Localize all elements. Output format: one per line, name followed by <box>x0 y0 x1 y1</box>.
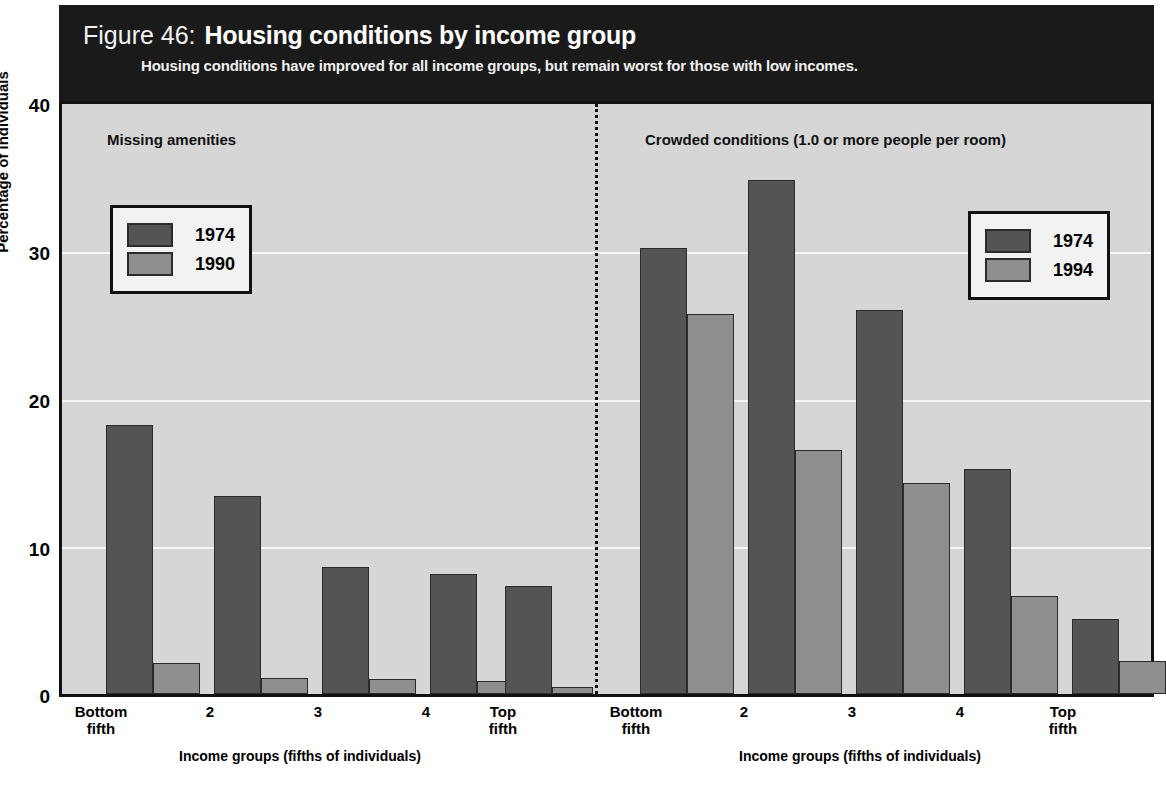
gridline-20 <box>62 400 1151 402</box>
bar-left-4-1974 <box>430 574 477 694</box>
figure-banner: Figure 46:Housing conditions by income g… <box>59 5 1154 101</box>
legend-swatch-1974 <box>127 223 173 247</box>
bar-left-topfifth-1990 <box>552 687 593 694</box>
bar-right-bottomfifth-1974 <box>640 248 687 694</box>
x-category-left-3: 3 <box>268 703 368 720</box>
figure-title: Housing conditions by income group <box>205 21 636 49</box>
bar-right-topfifth-1974 <box>1072 619 1119 694</box>
x-category-line1: Top <box>1013 703 1113 720</box>
x-category-line2: fifth <box>1013 720 1113 737</box>
bar-left-bottomfifth-1990 <box>153 663 200 694</box>
legend-row-1974: 1974 <box>127 223 235 247</box>
x-category-line2: fifth <box>453 720 553 737</box>
x-category-left-bottomfifth: Bottom fifth <box>51 703 151 737</box>
panel-heading-missing-amenities: Missing amenities <box>107 131 236 148</box>
bar-right-topfifth-1994 <box>1119 661 1166 694</box>
legend-swatch-1990 <box>127 252 173 276</box>
x-category-line1: Top <box>453 703 553 720</box>
bar-left-3-1974 <box>322 567 369 694</box>
legend-row-1994: 1994 <box>985 258 1093 282</box>
y-tick-label-30: 30 <box>8 243 50 265</box>
legend-swatch-1994 <box>985 258 1031 282</box>
bar-right-3-1974 <box>856 310 903 694</box>
chart-plot-area: Missing amenities Crowded conditions (1.… <box>59 101 1154 697</box>
figure-title-line: Figure 46:Housing conditions by income g… <box>83 21 636 50</box>
x-category-line1: 2 <box>694 703 794 720</box>
bar-right-2-1994 <box>795 450 842 694</box>
panel-heading-crowded-conditions: Crowded conditions (1.0 or more people p… <box>645 131 1006 148</box>
bar-right-2-1974 <box>748 180 795 694</box>
y-tick-label-0: 0 <box>8 686 50 708</box>
legend-label-1994: 1994 <box>1053 260 1093 281</box>
x-category-line2: fifth <box>586 720 686 737</box>
figure-number: Figure 46: <box>83 21 196 49</box>
x-category-left-topfifth: Top fifth <box>453 703 553 737</box>
x-axis-title-left: Income groups (fifths of individuals) <box>130 748 470 764</box>
legend-swatch-1974-right <box>985 229 1031 253</box>
x-category-line1: 3 <box>802 703 902 720</box>
y-tick-label-20: 20 <box>8 391 50 413</box>
bar-left-2-1974 <box>214 496 261 694</box>
x-category-line1: 4 <box>910 703 1010 720</box>
bar-right-4-1974 <box>964 469 1011 694</box>
bar-right-3-1994 <box>903 483 950 694</box>
y-axis-title: Percentage of individuals <box>0 32 11 292</box>
bar-left-topfifth-1974 <box>505 586 552 694</box>
bar-left-bottomfifth-1974 <box>106 425 153 694</box>
panel-divider <box>595 104 598 694</box>
x-category-line1: 2 <box>160 703 260 720</box>
legend-label-1990: 1990 <box>195 254 235 275</box>
x-category-right-4: 4 <box>910 703 1010 720</box>
legend-row-1990: 1990 <box>127 252 235 276</box>
bar-right-4-1994 <box>1011 596 1058 694</box>
x-category-right-3: 3 <box>802 703 902 720</box>
legend-row-1974-right: 1974 <box>985 229 1093 253</box>
x-axis-title-right: Income groups (fifths of individuals) <box>660 748 1060 764</box>
x-category-right-2: 2 <box>694 703 794 720</box>
x-category-left-2: 2 <box>160 703 260 720</box>
x-category-right-bottomfifth: Bottom fifth <box>586 703 686 737</box>
bar-left-3-1990 <box>369 679 416 694</box>
x-category-right-topfifth: Top fifth <box>1013 703 1113 737</box>
x-category-line1: Bottom <box>51 703 151 720</box>
bar-right-bottomfifth-1994 <box>687 314 734 694</box>
x-category-line2: fifth <box>51 720 151 737</box>
legend-label-1974: 1974 <box>195 225 235 246</box>
legend-right: 1974 1994 <box>968 211 1110 300</box>
y-tick-label-10: 10 <box>8 539 50 561</box>
bar-left-2-1990 <box>261 678 308 694</box>
x-category-line1: Bottom <box>586 703 686 720</box>
legend-left: 1974 1990 <box>110 205 252 294</box>
figure-subtitle: Housing conditions have improved for all… <box>141 57 858 74</box>
x-category-line1: 3 <box>268 703 368 720</box>
legend-label-1974-right: 1974 <box>1053 231 1093 252</box>
y-tick-label-40: 40 <box>8 95 50 117</box>
